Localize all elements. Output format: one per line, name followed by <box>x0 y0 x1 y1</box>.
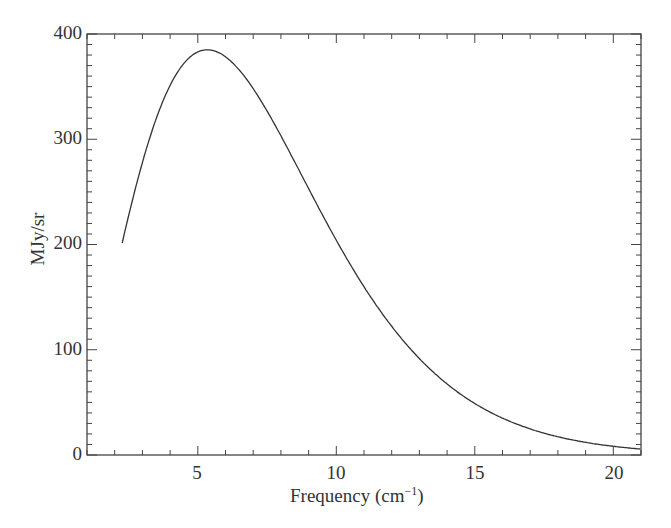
y-tick-label-100: 100 <box>22 338 82 360</box>
x-tick-label-10: 10 <box>316 462 356 484</box>
y-tick-label-0: 0 <box>22 443 82 465</box>
y-axis-label: MJy/sr <box>27 199 49 279</box>
x-axis-label: Frequency (cm−1) <box>290 484 424 507</box>
chart-plot-area <box>0 0 671 528</box>
y-tick-label-300: 300 <box>22 127 82 149</box>
y-tick-label-400: 400 <box>22 22 82 44</box>
x-tick-label-20: 20 <box>594 462 634 484</box>
x-tick-label-5: 5 <box>177 462 217 484</box>
spectrum-curve <box>122 50 640 449</box>
x-tick-label-15: 15 <box>455 462 495 484</box>
